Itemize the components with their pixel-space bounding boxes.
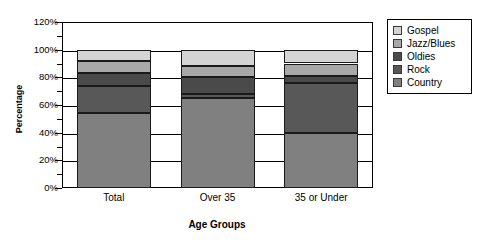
- y-minor-tick-mark: [57, 174, 62, 175]
- bar-segment-country: [181, 98, 255, 188]
- y-tick-mark: [55, 105, 62, 106]
- y-minor-tick-mark: [57, 119, 62, 120]
- y-axis-ticks: 0%20%40%60%80%100%120%: [18, 0, 58, 244]
- x-axis-title: Age Groups: [62, 219, 372, 230]
- y-tick-label: 20%: [24, 155, 58, 165]
- legend-item: Rock: [393, 63, 467, 76]
- bar-35-or-under: [284, 22, 358, 188]
- bar-segment-rock: [181, 94, 255, 98]
- stacked-bar-chart: Percentage 0%20%40%60%80%100%120% TotalO…: [0, 0, 479, 244]
- legend-swatch-icon: [393, 52, 402, 61]
- bar-segment-gospel: [181, 50, 255, 67]
- legend-swatch-icon: [393, 26, 402, 35]
- x-tick-label: Total: [54, 192, 174, 203]
- x-tick-label: Over 35: [158, 192, 278, 203]
- legend-label: Oldies: [407, 51, 435, 62]
- bar-segment-jazz-blues: [181, 66, 255, 77]
- y-minor-tick-mark: [57, 36, 62, 37]
- legend-label: Jazz/Blues: [407, 38, 455, 49]
- legend-label: Gospel: [407, 25, 439, 36]
- legend-item: Jazz/Blues: [393, 37, 467, 50]
- y-minor-tick-mark: [57, 64, 62, 65]
- y-tick-mark: [55, 160, 62, 161]
- bar-segment-rock: [284, 83, 358, 133]
- legend-swatch-icon: [393, 39, 402, 48]
- x-tick-label: 35 or Under: [261, 192, 381, 203]
- bar-segment-oldies: [181, 77, 255, 94]
- bar-segment-oldies: [284, 76, 358, 83]
- y-tick-mark: [55, 50, 62, 51]
- bars-layer: [62, 22, 373, 188]
- y-tick-label: 100%: [24, 45, 58, 55]
- bar-over-35: [181, 22, 255, 188]
- legend-swatch-icon: [393, 78, 402, 87]
- legend-label: Rock: [407, 64, 430, 75]
- y-tick-label: 120%: [24, 17, 58, 27]
- chart-legend: GospelJazz/BluesOldiesRockCountry: [387, 19, 472, 94]
- y-minor-tick-mark: [57, 91, 62, 92]
- y-minor-tick-mark: [57, 147, 62, 148]
- legend-label: Country: [407, 77, 442, 88]
- legend-item: Gospel: [393, 24, 467, 37]
- bar-segment-rock: [77, 86, 151, 114]
- bar-segment-gospel: [284, 50, 358, 64]
- y-tick-label: 40%: [24, 128, 58, 138]
- bar-segment-country: [77, 113, 151, 188]
- bar-segment-jazz-blues: [77, 61, 151, 73]
- y-tick-mark: [55, 77, 62, 78]
- y-tick-label: 60%: [24, 100, 58, 110]
- y-tick-mark: [55, 188, 62, 189]
- y-tick-mark: [55, 22, 62, 23]
- bar-segment-jazz-blues: [284, 64, 358, 76]
- legend-swatch-icon: [393, 65, 402, 74]
- legend-item: Oldies: [393, 50, 467, 63]
- legend-item: Country: [393, 76, 467, 89]
- bar-segment-country: [284, 133, 358, 188]
- y-tick-mark: [55, 133, 62, 134]
- y-tick-label: 80%: [24, 72, 58, 82]
- bar-segment-oldies: [77, 73, 151, 85]
- bar-total: [77, 22, 151, 188]
- bar-segment-gospel: [77, 50, 151, 61]
